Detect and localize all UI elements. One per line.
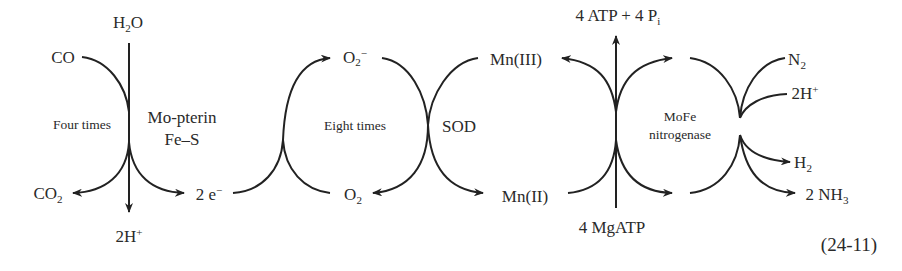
nh3-output-arc [740, 135, 795, 193]
n2-label: N2 [788, 51, 806, 71]
water-label: H2O [113, 14, 143, 34]
mgatp-label: 4 MgATP [579, 219, 646, 236]
superoxide-label: O2− [343, 48, 367, 69]
equation-number: (24-11) [821, 235, 877, 254]
mo-pterin-enzyme-label: Mo-pterinFe–S [148, 107, 217, 151]
nh3-label: 2 NH3 [806, 186, 849, 206]
superoxide-to-sod-arc [382, 58, 428, 125]
mofe-nitrogenase-label: MoFenitrogenase [649, 108, 711, 143]
co-label: CO [51, 49, 75, 66]
mn2-to-fe-protein-arc [568, 140, 616, 193]
sod-enzyme-label: SOD [442, 118, 476, 135]
fe-protein-to-mn3-arc [562, 58, 616, 112]
electron-to-superoxide-arc [233, 58, 330, 193]
mn3-label: Mn(III) [490, 51, 542, 68]
sod-to-oxygen-arc [373, 125, 428, 193]
right-lower-arc [690, 135, 740, 193]
four-times-label: Four times [53, 118, 111, 132]
oxygen-return-arc [283, 140, 330, 193]
mn3-to-sod-arc [428, 58, 478, 125]
left-lower-arc [616, 140, 672, 193]
mn2-label: Mn(II) [502, 188, 548, 205]
atp-out-label: 4 ATP + 4 Pi [576, 7, 661, 27]
co2-output-arc [73, 142, 129, 193]
electron-label: 2 e− [196, 185, 223, 203]
proton-input-arc [740, 94, 787, 118]
eight-times-label: Eight times [324, 119, 386, 133]
left-upper-arc [616, 58, 672, 112]
co-input-arc [82, 57, 129, 112]
oxygen-label: O2 [344, 186, 362, 206]
proton-in-label: 2H+ [791, 84, 818, 102]
co2-label: CO2 [33, 185, 62, 205]
h2-label: H2 [794, 154, 812, 174]
proton-out-label: 2H+ [115, 227, 142, 245]
h2-output-arc [740, 135, 790, 162]
